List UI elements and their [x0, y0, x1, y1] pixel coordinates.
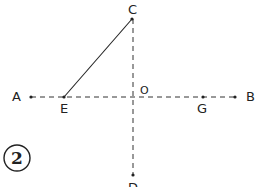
label-e: E [60, 101, 68, 116]
point-a [29, 95, 32, 98]
geometry-diagram: A E O G B C D 2 [0, 0, 258, 187]
label-d: D [128, 180, 138, 187]
point-c [130, 17, 133, 20]
label-g: G [197, 101, 207, 116]
point-b [233, 95, 236, 98]
label-c: C [128, 2, 137, 17]
figure-number: 2 [11, 148, 23, 168]
point-g [201, 95, 204, 98]
label-a: A [12, 89, 21, 104]
point-d [131, 173, 134, 176]
point-e [62, 95, 65, 98]
segment-ec [64, 19, 132, 97]
label-b: B [246, 89, 255, 104]
label-o: O [140, 84, 149, 97]
